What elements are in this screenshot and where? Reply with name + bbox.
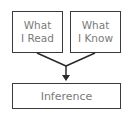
arrowhead-down-icon [62, 75, 70, 81]
connector-line-right [66, 53, 95, 66]
inference-box: Inference [12, 83, 121, 109]
connector-line-left [37, 53, 66, 66]
box-label: Inference [41, 90, 93, 103]
